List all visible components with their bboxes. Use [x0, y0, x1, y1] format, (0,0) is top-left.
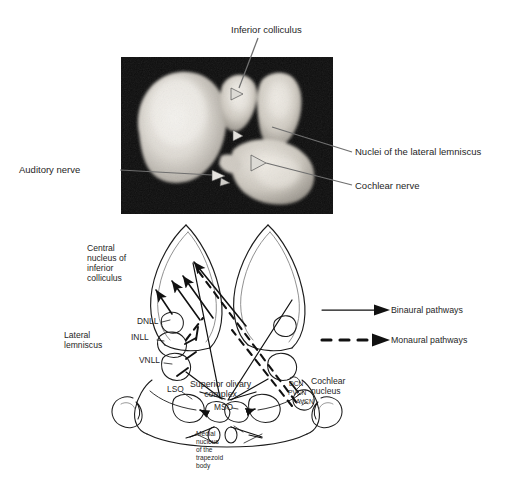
diagram-label-central-nucleus-inferior-colliculus: Central nucleus of inferior colliculus — [87, 243, 126, 284]
diagram-label-inll: INLL — [131, 333, 149, 343]
diagram-label-cochlear-nucleus: Cochlear nucleus — [311, 376, 345, 397]
diagram-label-dcn: DCN — [289, 380, 303, 388]
diagram-label-lso: LSO — [167, 385, 184, 395]
photo-label-inferior-colliculus: Inferior colliculus — [231, 24, 302, 35]
photo-label-cochlear-nerve: Cochlear nerve — [355, 180, 419, 191]
photo-label-nuclei-lateral-lemniscus: Nuclei of the lateral lemniscus — [355, 146, 481, 157]
diagram-label-vnll: VNLL — [139, 356, 160, 366]
diagram-label-medial-nucleus-trapezoid-body: Medial nucleus of the trapezoid body — [196, 430, 223, 470]
diagram-label-avcn: AVCN — [296, 398, 314, 406]
diagram-label-mso: MSO — [214, 403, 233, 413]
legend-label-monaural-pathways: Monaural pathways — [391, 335, 467, 345]
diagram-label-superior-olivary-complex: Superior olivary complex — [190, 379, 251, 400]
legend-label-binaural-pathways: Binaural pathways — [391, 305, 463, 315]
photo-label-auditory-nerve: Auditory nerve — [19, 164, 80, 175]
diagram-label-dnll: DNLL — [137, 317, 158, 327]
specimen-photograph — [120, 38, 352, 214]
auditory-pathway-figure — [0, 0, 505, 477]
diagram-label-pvcn: PVCN — [288, 389, 306, 397]
diagram-label-lateral-lemniscus: Lateral lemniscus — [64, 330, 102, 350]
